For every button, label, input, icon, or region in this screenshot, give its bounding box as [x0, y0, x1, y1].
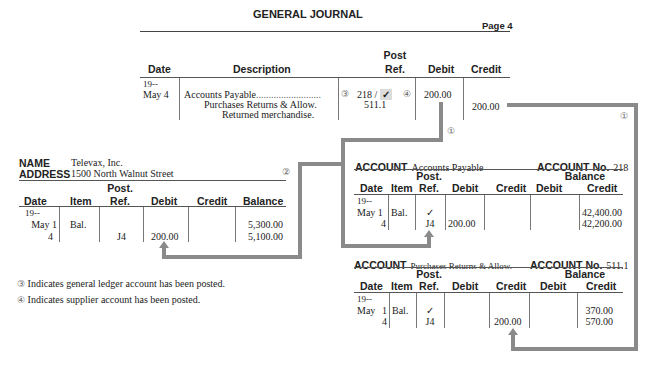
column-rule [444, 293, 445, 328]
divider [140, 77, 510, 78]
row-bal-credit: 570.00 [578, 316, 613, 327]
row-date: 4 [357, 218, 386, 229]
row-balance: 5,300.00 [236, 219, 283, 230]
year: 19-- [357, 196, 372, 206]
note-general-ledger: ③ Indicates general ledger account has b… [17, 278, 225, 289]
post-ref-header-1: Post. [100, 182, 140, 194]
column-rule [143, 207, 144, 242]
column-rule [484, 195, 485, 230]
journal-year: 19-- [143, 79, 158, 89]
row-item: Bal. [392, 305, 408, 316]
journal-title: GENERAL JOURNAL [253, 8, 363, 20]
connector-supplier [162, 255, 302, 259]
debit-header: Debit [452, 182, 478, 194]
arrow-up-icon [424, 230, 434, 237]
column-rule [445, 195, 446, 230]
marker-1: ① [620, 111, 628, 121]
connector-debit [427, 236, 431, 248]
connector-debit [341, 138, 443, 142]
connector-supplier [162, 247, 166, 259]
journal-postref-2: 511.1 [364, 99, 386, 110]
connector-credit [507, 103, 638, 107]
balance-header: Balance [545, 268, 625, 280]
marker-3: ③ [341, 89, 349, 99]
post-ref-header-2: Ref. [414, 280, 444, 292]
journal-date: May 4 [143, 89, 169, 100]
date-header: Date [148, 63, 171, 75]
row-bal-credit: 42,400.00 [580, 207, 622, 218]
marker-4: ④ [403, 89, 411, 99]
marker-2: ② [282, 167, 290, 177]
credit-header: Credit [496, 280, 526, 292]
column-rule [389, 293, 390, 328]
bal-credit-header: Credit [586, 280, 616, 292]
supplier-address: 1500 North Walnut Street [71, 168, 174, 179]
column-rule [338, 78, 339, 120]
row-date: 4 [20, 231, 53, 242]
column-rule [489, 293, 490, 328]
supplier-name: Televax, Inc. [71, 157, 123, 168]
row-date: May 1 [357, 207, 383, 218]
debit-header: Debit [452, 280, 478, 292]
credit-header: Credit [496, 182, 526, 194]
journal-debit-1: 200.00 [424, 89, 452, 100]
year: 19-- [357, 294, 372, 304]
post-ref-header-1: Post. [414, 170, 444, 182]
connector-credit [511, 347, 638, 351]
journal-desc-3: Returned merchandise. [222, 109, 314, 120]
row-date: May 1 [20, 219, 57, 230]
credit-header: Credit [471, 63, 501, 75]
year: 19-- [25, 208, 40, 218]
check-icon: ✓ [415, 207, 445, 218]
row-postref: J4 [415, 218, 445, 229]
divider [19, 180, 286, 181]
divider [354, 194, 623, 195]
note-supplier: ④ Indicates supplier account has been po… [17, 294, 200, 305]
item-header: Item [391, 280, 413, 292]
row-postref: J4 [416, 316, 444, 327]
journal-credit-2: 200.00 [472, 101, 500, 112]
bal-debit-header: Debit [540, 280, 566, 292]
arrow-up-icon [159, 241, 169, 248]
divider [140, 31, 510, 32]
bal-credit-header: Credit [587, 182, 617, 194]
description-header: Description [233, 63, 291, 75]
column-rule [529, 293, 530, 328]
date-header: Date [360, 182, 383, 194]
row-balance: 5,100.00 [236, 231, 283, 242]
journal-page: Page 4 [482, 20, 513, 31]
column-rule [388, 195, 389, 230]
item-header: Item [391, 182, 413, 194]
column-rule [188, 207, 189, 242]
connector-supplier [298, 162, 343, 166]
column-rule [415, 78, 416, 120]
connector-debit [341, 244, 431, 248]
post-ref-header-2: Ref. [414, 182, 444, 194]
check-icon: ✓ [416, 305, 444, 316]
column-rule [59, 207, 60, 242]
post-ref-header-1: Post. [414, 268, 444, 280]
column-rule [179, 78, 180, 120]
column-rule [463, 78, 464, 120]
row-debit: 200.00 [151, 231, 179, 242]
marker-1: ① [447, 126, 455, 136]
row-day: 1 [378, 305, 387, 316]
connector-debit [439, 102, 443, 142]
row-bal-credit: 370.00 [578, 305, 613, 316]
date-header: Date [360, 280, 383, 292]
column-rule [530, 195, 531, 230]
connector-credit [511, 334, 515, 351]
address-label: ADDRESS [19, 168, 70, 180]
arrow-up-icon [508, 328, 518, 335]
row-month: May [357, 305, 375, 316]
balance-header: Balance [545, 170, 625, 182]
connector-supplier [298, 162, 302, 259]
row-item: Bal. [391, 207, 407, 218]
row-bal-credit: 42,200.00 [580, 218, 622, 229]
row-debit: 200.00 [448, 218, 476, 229]
row-item: Bal. [70, 219, 86, 230]
debit-header: Debit [428, 63, 454, 75]
post-ref-header-1: Post [370, 49, 420, 61]
post-ref-header-2: Ref. [370, 63, 420, 75]
row-credit: 200.00 [494, 316, 522, 327]
